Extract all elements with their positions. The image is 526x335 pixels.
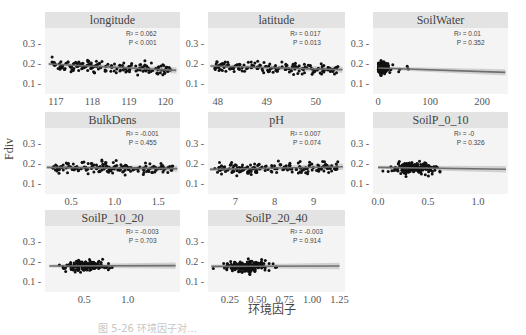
y-tick-label: 0.1 - bbox=[343, 78, 369, 89]
y-tick-label: 0.1 - bbox=[178, 276, 204, 287]
x-tick-label: 117 bbox=[48, 96, 63, 107]
r-squared-label: R² = 0.062 bbox=[126, 30, 157, 37]
r-squared-label: R² = -0.003 bbox=[126, 228, 159, 235]
r-squared-label: R² = -0.003 bbox=[290, 228, 323, 235]
y-tick-label: 0.3 - bbox=[15, 236, 41, 247]
x-tick-label: 1.0 bbox=[471, 196, 484, 207]
r-squared-label: R² = 0.01 bbox=[454, 30, 481, 37]
y-tick-label: 0.2 - bbox=[343, 158, 369, 169]
facet-panel-longitude: longitudeR² = 0.062P < 0.0010.1 -0.2 -0.… bbox=[45, 12, 180, 94]
y-tick-label: 0.2 - bbox=[15, 256, 41, 267]
p-value-label: P = 0.914 bbox=[293, 237, 321, 244]
y-tick-label: 0.2 - bbox=[15, 58, 41, 69]
x-tick-label: 0.0 bbox=[371, 196, 384, 207]
y-tick-label: 0.3 - bbox=[178, 138, 204, 149]
x-tick-label: 0.25 bbox=[221, 294, 239, 305]
x-tick-label: 0.75 bbox=[276, 294, 294, 305]
x-tick-label: 0.50 bbox=[248, 294, 266, 305]
facet-panel-soilp-10-20: SoilP_10_20R² = -0.003P = 0.7030.1 -0.2 … bbox=[45, 210, 180, 292]
y-tick-label: 0.1 - bbox=[15, 276, 41, 287]
p-value-label: P = 0.013 bbox=[293, 39, 321, 46]
x-tick-label: 9 bbox=[311, 196, 316, 207]
y-tick-label: 0.1 - bbox=[15, 78, 41, 89]
y-tick-label: 0.3 - bbox=[15, 138, 41, 149]
facet-panel-latitude: latitudeR² = 0.017P = 0.0130.1 -0.2 -0.3… bbox=[208, 12, 345, 94]
p-value-label: P = 0.703 bbox=[129, 237, 157, 244]
p-value-label: P = 0.074 bbox=[293, 139, 321, 146]
facet-panel-ph: pHR² = 0.007P = 0.0740.1 -0.2 -0.3 -789 bbox=[208, 112, 345, 194]
y-tick-label: 0.2 - bbox=[178, 58, 204, 69]
x-tick-label: 1.5 bbox=[152, 196, 165, 207]
x-tick-label: 200 bbox=[474, 96, 490, 107]
scatter-plot-area: R² = 0.007P = 0.074 bbox=[208, 128, 345, 194]
scatter-plot-area: R² = 0.062P < 0.001 bbox=[45, 28, 180, 94]
x-tick-label: 119 bbox=[121, 96, 136, 107]
x-tick-label: 0.5 bbox=[78, 294, 91, 305]
facet-strip-title: pH bbox=[208, 112, 345, 128]
r-squared-label: R² = -0 bbox=[454, 130, 474, 137]
scatter-plot-area: R² = -0.003P = 0.914 bbox=[208, 226, 345, 292]
x-tick-label: 0.5 bbox=[65, 196, 78, 207]
y-tick-label: 0.2 - bbox=[178, 256, 204, 267]
y-tick-label: 0.3 - bbox=[343, 138, 369, 149]
y-tick-label: 0.3 - bbox=[178, 38, 204, 49]
p-value-label: P = 0.352 bbox=[457, 39, 485, 46]
x-tick-label: 48 bbox=[213, 96, 224, 107]
x-tick-label: 100 bbox=[422, 96, 438, 107]
figure-caption: 图 5-26 环境因子对… bbox=[98, 320, 197, 335]
scatter-plot-area: R² = -0.003P = 0.703 bbox=[45, 226, 180, 292]
x-tick-label: 50 bbox=[310, 96, 321, 107]
x-tick-label: 8 bbox=[272, 196, 277, 207]
x-tick-label: 1.25 bbox=[330, 294, 348, 305]
y-tick-label: 0.1 - bbox=[343, 178, 369, 189]
y-tick-label: 0.2 - bbox=[15, 158, 41, 169]
facet-strip-title: SoilP_10_20 bbox=[45, 210, 180, 226]
facet-strip-title: BulkDens bbox=[45, 112, 180, 128]
p-value-label: P = 0.455 bbox=[129, 139, 157, 146]
r-squared-label: R² = -0.001 bbox=[126, 130, 159, 137]
x-tick-label: 1.0 bbox=[121, 294, 134, 305]
scatter-plot-area: R² = -0.001P = 0.455 bbox=[45, 128, 180, 194]
x-tick-label: 7 bbox=[233, 196, 238, 207]
facet-strip-title: SoilP_20_40 bbox=[208, 210, 345, 226]
facet-panel-soilp-0-10: SoilP_0_10R² = -0P = 0.3260.1 -0.2 -0.3 … bbox=[373, 112, 508, 194]
x-tick-label: 0.5 bbox=[421, 196, 434, 207]
y-tick-label: 0.1 - bbox=[178, 178, 204, 189]
x-tick-label: 1.00 bbox=[303, 294, 321, 305]
y-tick-label: 0.1 - bbox=[178, 78, 204, 89]
x-tick-label: 49 bbox=[261, 96, 272, 107]
p-value-label: P < 0.001 bbox=[129, 39, 157, 46]
facet-strip-title: latitude bbox=[208, 12, 345, 28]
x-tick-label: 0 bbox=[376, 96, 381, 107]
y-tick-label: 0.3 - bbox=[343, 38, 369, 49]
scatter-plot-area: R² = 0.01P = 0.352 bbox=[373, 28, 508, 94]
facet-panel-bulkdens: BulkDensR² = -0.001P = 0.4550.1 -0.2 -0.… bbox=[45, 112, 180, 194]
scatter-plot-area: R² = 0.017P = 0.013 bbox=[208, 28, 345, 94]
scatter-plot-area: R² = -0P = 0.326 bbox=[373, 128, 508, 194]
x-tick-label: 1.0 bbox=[108, 196, 121, 207]
facet-strip-title: SoilWater bbox=[373, 12, 508, 28]
y-tick-label: 0.2 - bbox=[343, 58, 369, 69]
x-tick-label: 118 bbox=[85, 96, 100, 107]
facet-strip-title: SoilP_0_10 bbox=[373, 112, 508, 128]
facet-panel-soilwater: SoilWaterR² = 0.01P = 0.3520.1 -0.2 -0.3… bbox=[373, 12, 508, 94]
p-value-label: P = 0.326 bbox=[457, 139, 485, 146]
facet-panel-soilp-20-40: SoilP_20_40R² = -0.003P = 0.9140.1 -0.2 … bbox=[208, 210, 345, 292]
x-tick-label: 120 bbox=[158, 96, 174, 107]
y-tick-label: 0.3 - bbox=[15, 38, 41, 49]
y-tick-label: 0.1 - bbox=[15, 178, 41, 189]
r-squared-label: R² = 0.017 bbox=[290, 30, 321, 37]
r-squared-label: R² = 0.007 bbox=[290, 130, 321, 137]
y-tick-label: 0.2 - bbox=[178, 158, 204, 169]
facet-strip-title: longitude bbox=[45, 12, 180, 28]
y-tick-label: 0.3 - bbox=[178, 236, 204, 247]
